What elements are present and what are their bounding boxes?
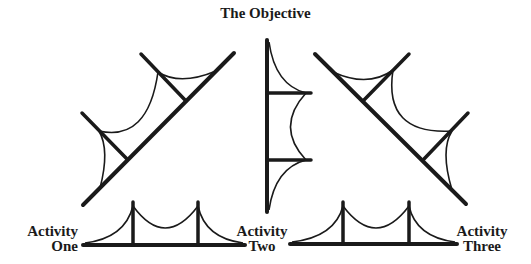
label-activity-one-line2: One	[22, 239, 78, 254]
diagram-title: The Objective	[0, 6, 531, 21]
label-activity-one-line1: Activity	[22, 224, 78, 239]
bridge-bottom-left	[83, 202, 245, 245]
bridge-bottom-right	[290, 202, 457, 244]
bridge-right-diagonal	[315, 54, 468, 204]
label-activity-two-line1: Activity	[232, 224, 292, 239]
bridge-left-diagonal	[82, 53, 234, 205]
label-activity-three: Activity Three	[452, 224, 512, 254]
label-activity-two: Activity Two	[232, 224, 292, 254]
label-activity-three-line2: Three	[452, 239, 512, 254]
label-activity-three-line1: Activity	[452, 224, 512, 239]
label-activity-two-line2: Two	[232, 239, 292, 254]
bridges-diagram: The Objective Activity One Activity Two …	[0, 0, 531, 264]
bridge-center-vertical	[267, 40, 311, 212]
label-activity-one: Activity One	[22, 224, 78, 254]
